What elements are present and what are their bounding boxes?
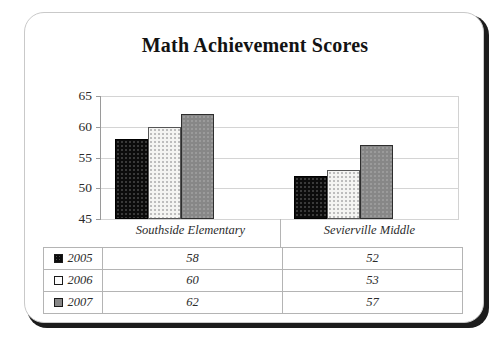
white-swatch-icon xyxy=(54,276,63,285)
y-tick-mark-50 xyxy=(96,188,101,189)
legend-year-label: 2006 xyxy=(68,273,93,287)
plot-area: 4550556065 xyxy=(101,96,459,219)
bar-2007-sevierville-middle xyxy=(360,145,393,219)
value-cell-2006-col1: 60 xyxy=(103,270,283,292)
value-cell-2005-col1: 58 xyxy=(103,248,283,270)
data-table: 200558522006605320076257 xyxy=(43,247,463,314)
y-tick-mark-60 xyxy=(96,127,101,128)
bar-2007-southside-elementary xyxy=(181,114,214,219)
chart-card: Math Achievement Scores 4550556065 South… xyxy=(24,12,484,323)
table-row: 20076257 xyxy=(44,292,463,314)
table-row: 20066053 xyxy=(44,270,463,292)
data-table-body: 200558522006605320076257 xyxy=(44,248,463,314)
y-tick-label-60: 60 xyxy=(79,119,93,135)
y-tick-label-45: 45 xyxy=(79,211,93,227)
category-label-sevierville-middle: Sevierville Middle xyxy=(280,223,459,238)
value-cell-2007-col1: 62 xyxy=(103,292,283,314)
value-cell-2007-col2: 57 xyxy=(283,292,463,314)
page-title: Math Achievement Scores xyxy=(25,34,484,57)
legend-cell-2007: 2007 xyxy=(44,292,103,314)
table-row: 20055852 xyxy=(44,248,463,270)
value-cell-2005-col2: 52 xyxy=(283,248,463,270)
y-tick-mark-65 xyxy=(96,96,101,97)
category-label-strip: Southside Elementary Sevierville Middle xyxy=(101,219,459,248)
gridline-65 xyxy=(101,96,459,97)
y-tick-mark-55 xyxy=(96,158,101,159)
gray-swatch-icon xyxy=(54,298,63,307)
legend-cell-2005: 2005 xyxy=(44,248,103,270)
legend-year-label: 2005 xyxy=(68,251,93,265)
y-tick-label-50: 50 xyxy=(79,180,93,196)
category-label-southside-elementary: Southside Elementary xyxy=(101,223,280,238)
value-cell-2006-col2: 53 xyxy=(283,270,463,292)
y-tick-label-55: 55 xyxy=(79,150,93,166)
bar-2006-sevierville-middle xyxy=(327,170,360,219)
legend-year-label: 2007 xyxy=(68,295,93,309)
legend-cell-2006: 2006 xyxy=(44,270,103,292)
bar-2006-southside-elementary xyxy=(148,127,181,219)
bar-2005-southside-elementary xyxy=(115,139,148,219)
black-swatch-icon xyxy=(54,254,63,263)
y-tick-label-65: 65 xyxy=(79,88,93,104)
bar-2005-sevierville-middle xyxy=(294,176,327,219)
